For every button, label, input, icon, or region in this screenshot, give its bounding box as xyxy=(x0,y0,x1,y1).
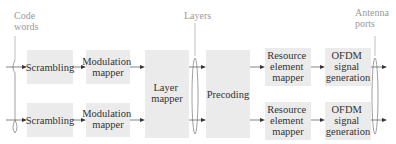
lte-downlink-diagram: Code words Layers Antenna ports Scrambli… xyxy=(0,0,396,144)
scrambling-label-2: Scrambling xyxy=(26,115,75,126)
code-words-label: Code words xyxy=(14,10,39,32)
antenna-ports-label: Antenna ports xyxy=(355,7,391,29)
scrambling-label-1: Scrambling xyxy=(26,62,75,73)
precoding-label: Precoding xyxy=(207,89,250,100)
layers-brace xyxy=(192,58,198,134)
antenna-ports-brace xyxy=(372,58,378,134)
code-words-brace xyxy=(13,60,17,133)
resource-element-mapper-label-1: Resource element mapper xyxy=(267,50,309,83)
resource-element-mapper-label-2: Resource element mapper xyxy=(267,104,309,137)
layer-mapper-label: Layer mapper xyxy=(151,82,183,104)
layers-label: Layers xyxy=(184,10,211,21)
